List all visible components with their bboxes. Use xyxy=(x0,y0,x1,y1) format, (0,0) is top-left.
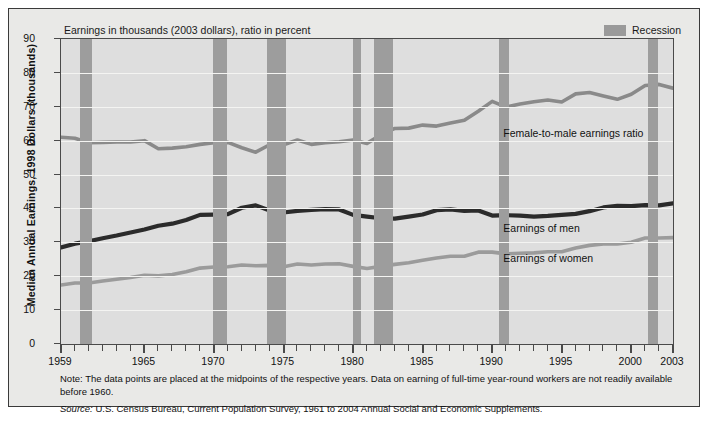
x-tick-mark-major xyxy=(60,345,62,353)
series-line xyxy=(61,84,673,152)
recession-band xyxy=(80,39,91,344)
x-tick-mark xyxy=(116,345,117,351)
gridline xyxy=(61,242,673,243)
recession-band xyxy=(374,39,393,344)
x-tick-label: 1965 xyxy=(132,355,155,367)
x-tick-mark xyxy=(505,345,506,351)
x-tick-mark xyxy=(227,345,228,351)
x-tick-mark xyxy=(88,345,89,351)
x-tick-label: 2000 xyxy=(619,355,642,367)
x-tick-label: 1990 xyxy=(479,355,502,367)
x-tick-mark xyxy=(394,345,395,351)
x-tick-mark xyxy=(658,345,659,351)
x-tick-label: 1980 xyxy=(340,355,363,367)
y-tick-label: 10 xyxy=(5,303,35,315)
x-tick-mark xyxy=(74,345,75,351)
footnotes: Note: The data points are placed at the … xyxy=(60,373,680,416)
x-tick-mark xyxy=(338,345,339,351)
recession-swatch-icon xyxy=(604,25,626,36)
x-tick-mark xyxy=(602,345,603,351)
x-tick-mark xyxy=(241,345,242,351)
x-tick-mark-major xyxy=(143,345,145,353)
y-tick-label: 40 xyxy=(5,201,35,213)
y-tick-label: 0 xyxy=(5,337,35,349)
series-line xyxy=(61,203,673,247)
x-tick-mark xyxy=(102,345,103,351)
x-tick-mark-major xyxy=(672,345,674,353)
x-tick-mark-major xyxy=(213,345,215,353)
x-tick-label: 1985 xyxy=(410,355,433,367)
x-tick-mark xyxy=(171,345,172,351)
gridline xyxy=(61,73,673,74)
x-tick-mark xyxy=(255,345,256,351)
x-tick-mark-major xyxy=(283,345,285,353)
source-label: Source: xyxy=(60,403,93,414)
y-tick-label: 60 xyxy=(5,134,35,146)
series-annotation: Earnings of men xyxy=(503,222,579,234)
x-tick-label: 1995 xyxy=(549,355,572,367)
x-tick-mark xyxy=(575,345,576,351)
series-annotation: Earnings of women xyxy=(503,252,593,264)
series-annotation: Female-to-male earnings ratio xyxy=(503,127,643,139)
x-tick-mark xyxy=(199,345,200,351)
x-tick-label: 1959 xyxy=(48,355,71,367)
legend-label-recession: Recession xyxy=(632,24,681,36)
x-tick-mark-major xyxy=(630,345,632,353)
x-tick-mark-major xyxy=(561,345,563,353)
recession-band xyxy=(267,39,286,344)
note-text: Note: The data points are placed at the … xyxy=(60,373,680,398)
gridline xyxy=(61,107,673,108)
recession-band xyxy=(353,39,361,344)
x-tick-mark-major xyxy=(352,345,354,353)
chart-panel: Median Annual Earnings, 1998 Dollars (th… xyxy=(8,8,700,407)
gridline xyxy=(61,141,673,142)
x-tick-mark xyxy=(436,345,437,351)
y-tick-label: 70 xyxy=(5,100,35,112)
recession-band xyxy=(213,39,227,344)
recession-band xyxy=(499,39,509,344)
plot-area: Female-to-male earnings ratioEarnings of… xyxy=(60,38,674,345)
x-tick-mark xyxy=(296,345,297,351)
x-tick-mark xyxy=(644,345,645,351)
source-text: Source: U.S. Census Bureau, Current Popu… xyxy=(60,403,680,416)
gridline xyxy=(61,175,673,176)
x-tick-mark xyxy=(589,345,590,351)
series-lines-layer xyxy=(61,39,673,344)
x-tick-mark xyxy=(533,345,534,351)
x-tick-mark-major xyxy=(422,345,424,353)
x-tick-label: 2003 xyxy=(660,355,683,367)
gridline xyxy=(61,310,673,311)
x-tick-mark xyxy=(366,345,367,351)
x-tick-mark xyxy=(449,345,450,351)
x-tick-mark xyxy=(185,345,186,351)
y-tick-label: 30 xyxy=(5,235,35,247)
x-tick-mark xyxy=(616,345,617,351)
x-tick-mark xyxy=(477,345,478,351)
x-tick-mark xyxy=(547,345,548,351)
units-caption: Earnings in thousands (2003 dollars), ra… xyxy=(64,24,310,36)
source-body: U.S. Census Bureau, Current Population S… xyxy=(93,403,543,414)
x-tick-mark xyxy=(519,345,520,351)
x-tick-mark-major xyxy=(491,345,493,353)
y-tick-label: 80 xyxy=(5,66,35,78)
x-tick-mark xyxy=(380,345,381,351)
y-tick-label: 50 xyxy=(5,168,35,180)
x-tick-mark xyxy=(130,345,131,351)
x-tick-mark xyxy=(269,345,270,351)
figure-container: Median Annual Earnings, 1998 Dollars (th… xyxy=(0,0,708,423)
x-tick-label: 1975 xyxy=(271,355,294,367)
gridline xyxy=(61,208,673,209)
gridline xyxy=(61,276,673,277)
x-tick-label: 1970 xyxy=(201,355,224,367)
y-tick-label: 90 xyxy=(5,32,35,44)
x-tick-mark xyxy=(310,345,311,351)
x-tick-mark xyxy=(463,345,464,351)
x-tick-mark xyxy=(157,345,158,351)
y-tick-label: 20 xyxy=(5,269,35,281)
x-tick-mark xyxy=(324,345,325,351)
x-tick-mark xyxy=(408,345,409,351)
legend: Recession xyxy=(604,24,681,36)
recession-band xyxy=(648,39,658,344)
